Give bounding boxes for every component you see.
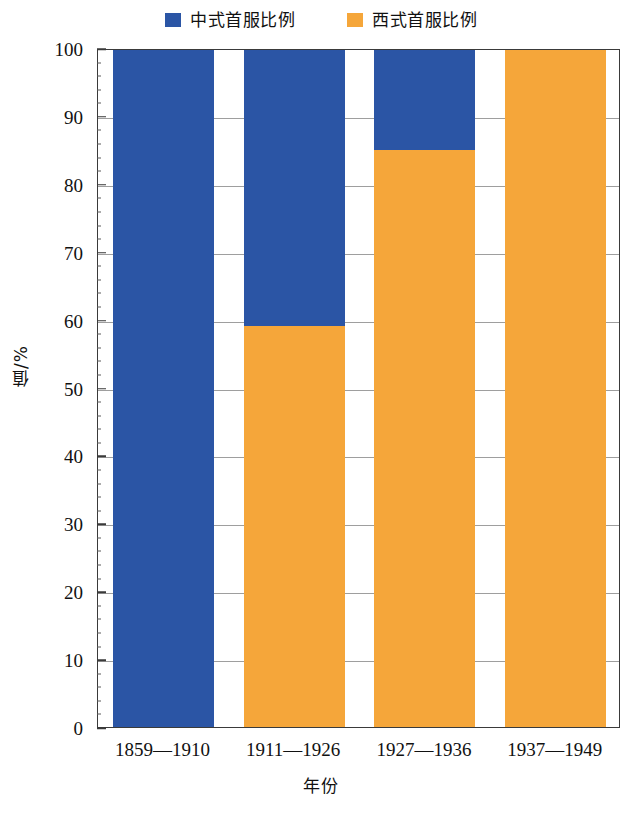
y-minor-tick-mark — [97, 198, 101, 199]
y-tick-mark — [97, 456, 106, 458]
y-tick-mark — [97, 727, 106, 729]
y-minor-tick-mark — [97, 565, 101, 566]
bar-segment[interactable] — [374, 150, 475, 727]
y-minor-tick-mark — [97, 700, 101, 701]
y-minor-tick-mark — [97, 673, 101, 674]
y-tick-label: 40 — [64, 447, 83, 466]
y-minor-tick-mark — [97, 76, 101, 77]
y-minor-tick-mark — [97, 307, 101, 308]
y-minor-tick-mark — [97, 578, 101, 579]
y-tick-label: 90 — [64, 107, 83, 126]
y-tick-label: 10 — [64, 651, 83, 670]
legend-item-label: 中式首服比例 — [190, 12, 295, 29]
bar-segment[interactable] — [505, 49, 606, 727]
y-minor-tick-mark — [97, 334, 101, 335]
plot-area — [97, 49, 620, 728]
bar-group[interactable] — [505, 49, 606, 727]
y-minor-tick-mark — [97, 469, 101, 470]
y-tick-mark — [97, 388, 106, 390]
y-minor-tick-mark — [97, 62, 101, 63]
y-minor-tick-mark — [97, 605, 101, 606]
legend-square-icon — [165, 13, 181, 27]
y-minor-tick-mark — [97, 687, 101, 688]
legend-item-chinese-headwear: 中式首服比例 — [165, 12, 295, 29]
bar-group[interactable] — [244, 49, 345, 727]
y-minor-tick-mark — [97, 402, 101, 403]
y-tick-label: 20 — [64, 583, 83, 602]
y-minor-tick-mark — [97, 646, 101, 647]
y-tick-mark — [97, 320, 106, 322]
y-tick-mark — [97, 48, 106, 50]
y-minor-tick-mark — [97, 442, 101, 443]
y-tick-label: 100 — [55, 40, 84, 59]
y-minor-tick-mark — [97, 211, 101, 212]
y-minor-tick-mark — [97, 347, 101, 348]
legend-item-label: 西式首服比例 — [372, 12, 477, 29]
y-tick-mark — [97, 116, 106, 118]
y-minor-tick-mark — [97, 266, 101, 267]
y-tick-mark — [97, 184, 106, 186]
y-minor-tick-mark — [97, 103, 101, 104]
bar-group[interactable] — [374, 49, 475, 727]
y-minor-tick-mark — [97, 429, 101, 430]
y-minor-tick-mark — [97, 551, 101, 552]
y-minor-tick-mark — [97, 537, 101, 538]
y-tick-label: 30 — [64, 515, 83, 534]
x-tick-label: 1927—1936 — [376, 740, 471, 759]
y-minor-tick-mark — [97, 279, 101, 280]
x-tick-label: 1911—1926 — [246, 740, 340, 759]
y-tick-mark — [97, 659, 106, 661]
x-tick-label: 1937—1949 — [507, 740, 602, 759]
bar-segment[interactable] — [113, 49, 214, 727]
y-minor-tick-mark — [97, 239, 101, 240]
y-minor-tick-mark — [97, 497, 101, 498]
y-minor-tick-mark — [97, 374, 101, 375]
y-minor-tick-mark — [97, 225, 101, 226]
y-minor-tick-mark — [97, 632, 101, 633]
y-minor-tick-mark — [97, 157, 101, 158]
y-tick-label: 0 — [74, 719, 84, 738]
y-axis: 0102030405060708090100 — [0, 0, 97, 820]
y-minor-tick-mark — [97, 619, 101, 620]
bar-segment[interactable] — [244, 326, 345, 727]
bar-group[interactable] — [113, 49, 214, 727]
y-tick-mark — [97, 524, 106, 526]
y-minor-tick-mark — [97, 510, 101, 511]
x-tick-label: 1859—1910 — [115, 740, 210, 759]
y-minor-tick-mark — [97, 144, 101, 145]
y-tick-label: 50 — [64, 379, 83, 398]
y-axis-title: 值/% — [8, 345, 33, 387]
y-tick-mark — [97, 591, 106, 593]
y-minor-tick-mark — [97, 171, 101, 172]
y-minor-tick-mark — [97, 415, 101, 416]
y-minor-tick-mark — [97, 293, 101, 294]
y-minor-tick-mark — [97, 714, 101, 715]
y-tick-label: 70 — [64, 243, 83, 262]
legend-item-western-headwear: 西式首服比例 — [347, 12, 477, 29]
bar-segment[interactable] — [374, 49, 475, 150]
bar-segment[interactable] — [244, 49, 345, 326]
x-axis-title: 年份 — [0, 772, 642, 797]
y-tick-label: 80 — [64, 175, 83, 194]
y-minor-tick-mark — [97, 483, 101, 484]
y-minor-tick-mark — [97, 130, 101, 131]
bars-layer — [98, 50, 619, 727]
y-tick-mark — [97, 252, 106, 254]
legend-square-icon — [347, 13, 363, 27]
y-tick-label: 60 — [64, 311, 83, 330]
y-minor-tick-mark — [97, 361, 101, 362]
y-minor-tick-mark — [97, 89, 101, 90]
